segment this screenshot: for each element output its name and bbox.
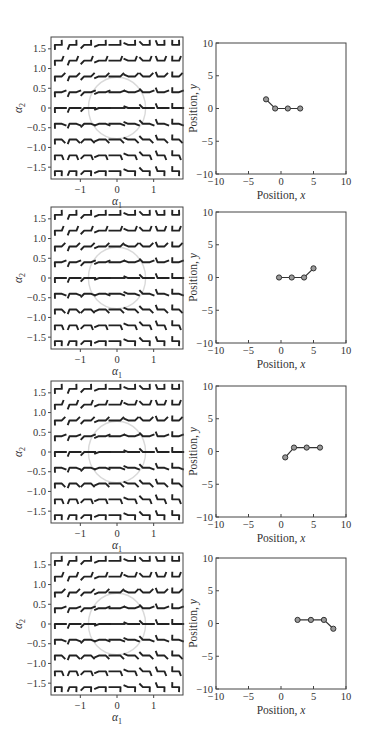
swimmer-joint-marker — [308, 617, 313, 622]
swimmer-glyph — [68, 90, 81, 97]
swimmer-glyph — [156, 72, 168, 77]
swimmer-chain — [298, 620, 334, 629]
swimmer-glyph — [94, 243, 109, 249]
swimmer-glyph — [109, 499, 123, 504]
swimmer-glyph — [124, 434, 140, 436]
swimmer-glyph — [172, 226, 181, 231]
figure-row-2: 1.51.00.50−0.5−1.0−1.5−101α1α2−10−505101… — [12, 207, 351, 381]
swimmer-glyph — [156, 135, 168, 143]
swimmer-glyph — [156, 258, 169, 263]
figure-row-4: 1.51.00.50−0.5−1.0−1.5−101α1α2−10−505101… — [12, 553, 351, 727]
swimmer-glyph — [109, 589, 124, 593]
swimmer-glyph — [139, 384, 149, 389]
swimmer-chain — [266, 99, 300, 108]
swimmer-glyph — [55, 40, 62, 50]
swimmer-glyph — [124, 226, 137, 231]
swimmer-glyph — [156, 151, 167, 160]
x-tick-label: 0 — [114, 184, 119, 195]
y-tick-label: −5 — [202, 651, 213, 662]
swimmer-glyph — [172, 103, 184, 108]
swimmer-glyph — [156, 447, 170, 452]
swimmer-glyph — [55, 155, 64, 160]
swimmer-glyph — [81, 606, 96, 612]
swimmer-glyph — [81, 515, 91, 520]
swimmer-glyph — [124, 153, 137, 160]
swimmer-glyph — [81, 140, 95, 144]
swimmer-glyph — [94, 56, 107, 63]
y-tick-label: 1.5 — [33, 559, 46, 570]
swimmer-joint-marker — [276, 275, 281, 280]
swimmer-glyph — [109, 556, 121, 561]
swimmer-glyph — [81, 687, 91, 692]
x-tick-label: 1 — [151, 528, 156, 539]
y-axis-label: Position, y — [187, 83, 200, 132]
x-tick-label: −5 — [243, 176, 254, 187]
swimmer-glyph — [156, 619, 170, 624]
swimmer-glyph — [124, 669, 137, 676]
swimmer-glyph — [94, 606, 110, 610]
y-axis-label: α2 — [12, 103, 27, 113]
swimmer-glyph — [156, 336, 165, 346]
y-tick-label: −0.5 — [27, 122, 46, 133]
swimmer-joint-marker — [263, 97, 268, 102]
x-tick-label: 5 — [311, 519, 316, 530]
swimmer-glyph — [55, 417, 65, 426]
swimmer-chain — [279, 268, 313, 277]
swimmer-glyph — [139, 433, 154, 437]
swimmer-glyph — [55, 210, 62, 220]
swimmer-glyph — [81, 556, 91, 565]
swimmer-glyph — [81, 243, 95, 250]
y-tick-label: 0 — [208, 103, 213, 114]
swimmer-joint-marker — [321, 617, 326, 622]
swimmer-glyph — [94, 90, 110, 94]
swimmer-glyph — [68, 640, 81, 645]
swimmer-glyph — [124, 73, 139, 77]
swimmer-glyph — [94, 384, 106, 391]
swimmer-glyph — [109, 325, 123, 330]
y-tick-label: −5 — [202, 305, 213, 316]
swimmer-glyph — [55, 243, 65, 252]
swimmer-glyph — [109, 515, 121, 520]
y-tick-label: −1.5 — [27, 506, 46, 517]
swimmer-glyph — [94, 499, 107, 504]
position-panel: −10−505101050−5−10Position, xPosition, y — [187, 553, 351, 718]
swimmer-glyph — [172, 587, 182, 592]
swimmer-glyph — [55, 400, 64, 410]
swimmer-glyph — [156, 556, 165, 561]
swimmer-glyph — [55, 515, 62, 520]
swimmer-glyph — [156, 40, 165, 45]
swimmer-glyph — [55, 434, 67, 441]
y-tick-label: 1.0 — [33, 233, 46, 244]
swimmer-glyph — [156, 88, 169, 93]
swimmer-glyph — [139, 73, 153, 77]
swimmer-glyph — [172, 447, 184, 452]
x-axis-label: Position, x — [257, 189, 306, 202]
swimmer-glyph — [94, 687, 106, 692]
swimmer-glyph — [156, 682, 165, 692]
swimmer-glyph — [68, 687, 77, 692]
x-tick-label: 10 — [341, 691, 352, 702]
swimmer-glyph — [68, 589, 80, 597]
swimmer-glyph — [124, 572, 137, 577]
y-tick-label: −5 — [202, 136, 213, 147]
x-tick-label: 5 — [311, 345, 316, 356]
swimmer-glyph — [55, 140, 65, 145]
swimmer-glyph — [68, 624, 82, 629]
y-tick-label: 1.5 — [33, 387, 46, 398]
position-panel: −10−505101050−5−10Position, xPosition, y — [187, 207, 351, 372]
swimmer-glyph — [94, 468, 110, 470]
shape-space-panel: 1.51.00.50−0.5−1.0−1.5−101α1α2 — [12, 37, 184, 210]
swimmer-joint-marker — [285, 106, 290, 111]
swimmer-glyph — [172, 150, 181, 160]
swimmer-glyph — [94, 341, 106, 346]
y-tick-label: 0 — [41, 447, 46, 458]
swimmer-glyph — [68, 556, 77, 566]
swimmer-glyph — [55, 325, 64, 330]
swimmer-glyph — [55, 341, 62, 346]
swimmer-glyph — [139, 56, 151, 61]
figure-row-3: 1.51.00.50−0.5−1.0−1.5−101α1α2−10−505101… — [12, 381, 351, 555]
swimmer-glyph — [109, 417, 124, 421]
swimmer-glyph — [68, 384, 77, 394]
swimmer-glyph — [139, 605, 154, 609]
swimmer-glyph — [81, 56, 93, 64]
